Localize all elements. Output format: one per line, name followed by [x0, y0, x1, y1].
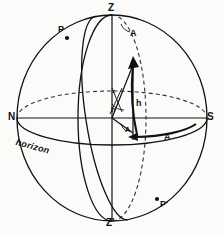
- label-altitude-center: h: [111, 106, 115, 113]
- figure-canvas: Z Z′ P P′ N S horizon A A A h h z: [0, 0, 224, 235]
- label-zenith-distance: z: [112, 88, 115, 94]
- label-pole-south: P′: [160, 200, 168, 209]
- pole-south-marker: [155, 197, 159, 201]
- label-cardinal-north: N: [8, 112, 15, 122]
- celestial-sphere-diagram: [0, 0, 224, 235]
- pole-north-marker: [65, 36, 69, 40]
- label-azimuth-center: A: [125, 126, 130, 133]
- label-pole-north: P: [58, 25, 64, 34]
- vertical-circle-front-arc: [70, 16, 128, 224]
- altitude-arrowhead: [128, 56, 139, 69]
- label-cardinal-south: S: [207, 112, 214, 122]
- label-azimuth-zenith: A: [130, 29, 137, 38]
- label-azimuth-horizon: A: [164, 133, 171, 142]
- label-nadir: Z′: [106, 218, 115, 228]
- label-zenith: Z: [108, 3, 114, 13]
- label-altitude-arc: h: [136, 99, 142, 108]
